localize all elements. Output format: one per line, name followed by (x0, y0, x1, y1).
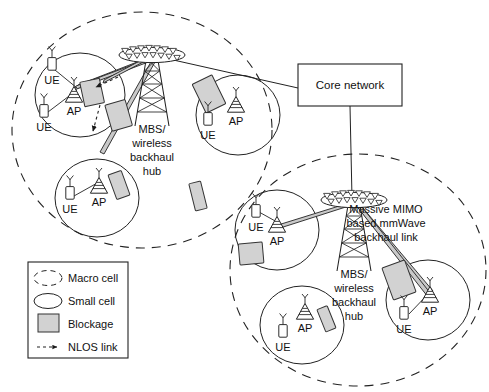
legend-label: NLOS link (68, 341, 118, 353)
blockage (238, 242, 264, 265)
ap-label: AP (229, 115, 244, 127)
annotation-line: based mmWave (346, 217, 425, 229)
gray-rectangle-icon (38, 314, 59, 332)
mbs-label-line: MBS/ (139, 123, 167, 135)
ap-label: AP (423, 305, 438, 317)
network-architecture-diagram: UE UE UE UE UE UE UE AP AP AP AP AP AP M… (0, 0, 489, 392)
ap-label: AP (270, 235, 285, 247)
ue-label: UE (396, 323, 411, 335)
blockage (317, 306, 336, 332)
legend-label: Small cell (68, 295, 115, 307)
mbs-label-line: wireless (131, 137, 172, 149)
annotation-line: backhaul link (354, 231, 418, 243)
core-network-box[interactable]: Core network (298, 64, 402, 106)
mbs-label-line: MBS/ (341, 268, 369, 280)
mbs-top-label: MBS/ wireless backhaul hub (130, 123, 174, 177)
mbs-label-line: hub (143, 165, 161, 177)
ap-node (296, 294, 313, 319)
mbs-label-line: hub (345, 310, 363, 322)
ue-label: UE (36, 121, 51, 133)
blockage (80, 78, 105, 107)
ue-node (48, 47, 56, 71)
blockage (108, 170, 130, 199)
backhaul-link-annotation: Massive MIMO based mmWave backhaul link (346, 203, 425, 243)
mbs-label-line: backhaul (130, 151, 174, 163)
ue-node (40, 94, 48, 118)
legend: Macro cell Small cell Blockage NLOS link (28, 262, 128, 358)
ap-node (90, 168, 107, 193)
legend-label: Macro cell (68, 272, 118, 284)
ue-node (279, 314, 287, 338)
nlos-arrow (93, 105, 100, 131)
annotation-line: Massive MIMO (349, 203, 423, 215)
ue-node (66, 176, 74, 200)
ue-label: UE (200, 129, 215, 141)
ap-label: AP (67, 105, 82, 117)
ue-label: UE (248, 221, 263, 233)
mbs-label-line: backhaul (332, 296, 376, 308)
ap-node (227, 87, 244, 112)
ap-label: AP (92, 196, 107, 208)
ue-node (400, 296, 408, 320)
ap-node (268, 207, 285, 232)
core-network-label: Core network (316, 79, 385, 91)
legend-label: Blockage (68, 318, 113, 330)
ue-label: UE (62, 203, 77, 215)
ue-label: UE (44, 74, 59, 86)
figure-canvas: UE UE UE UE UE UE UE AP AP AP AP AP AP M… (0, 0, 489, 392)
mbs-bottom-label: MBS/ wireless backhaul hub (332, 268, 376, 322)
ue-label: UE (275, 341, 290, 353)
ap-label: AP (298, 322, 313, 334)
blockage (189, 181, 207, 211)
mbs-label-line: wireless (333, 282, 374, 294)
